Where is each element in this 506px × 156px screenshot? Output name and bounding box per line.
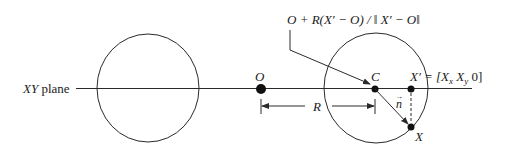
target-label: X [414,129,424,144]
xy-plane-label: XY plane [22,81,70,96]
origin-point [256,84,266,94]
sphere-projection-diagram: XY plane O + R(X′ − O) / ‖ X′ − O‖ O C X… [0,0,506,156]
projection-label: X′ = [Xx Xy 0] [409,69,482,86]
projection-point [408,86,415,93]
normal-vector-arrow [375,89,408,124]
origin-label: O [255,69,265,84]
formula-label: O + R(X′ − O) / ‖ X′ − O‖ [287,12,420,27]
center-label: C [371,69,380,84]
radius-label: R [312,99,321,114]
leader-line [290,30,370,84]
target-point [408,124,415,131]
normal-arrow-glyph: → [395,92,403,101]
